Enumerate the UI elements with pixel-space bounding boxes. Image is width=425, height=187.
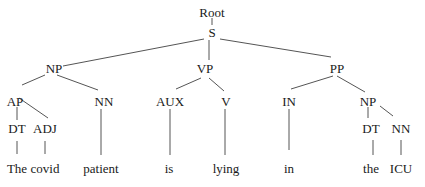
node-in: IN xyxy=(282,95,296,108)
node-root: Root xyxy=(199,6,224,19)
edge-vp-v xyxy=(209,78,224,91)
edge-np-ap xyxy=(22,75,45,85)
word-patient: patient xyxy=(83,162,118,175)
node-np-right: NP xyxy=(360,95,377,108)
word-is: is xyxy=(165,162,174,175)
word-lying: lying xyxy=(213,162,240,175)
node-dt: DT xyxy=(8,122,25,135)
node-vp: VP xyxy=(197,62,214,75)
node-adj: ADJ xyxy=(33,122,57,135)
edge-s-np xyxy=(63,39,204,66)
node-v: V xyxy=(221,95,230,108)
word-icu: ICU xyxy=(390,162,412,175)
word-the: The xyxy=(7,162,27,175)
word-in: in xyxy=(284,162,294,175)
node-np: NP xyxy=(46,62,63,75)
node-s: S xyxy=(208,26,215,39)
node-dt-right: DT xyxy=(362,122,379,135)
node-nn: NN xyxy=(95,95,114,108)
edge-s-pp xyxy=(220,39,331,57)
edge-ap-adj xyxy=(19,98,48,118)
node-aux: AUX xyxy=(156,95,184,108)
node-ap: AP xyxy=(7,95,24,108)
word-covid: covid xyxy=(31,162,60,175)
edge-pp-np xyxy=(337,76,365,92)
node-nn-right: NN xyxy=(392,122,411,135)
parse-tree: Root S NP VP PP AP NN AUX V IN NP DT ADJ… xyxy=(0,0,425,187)
edge-np-nn xyxy=(57,75,98,90)
edge-np2-nn xyxy=(380,106,393,116)
edge-pp-in xyxy=(291,76,333,89)
word-the-2: the xyxy=(363,162,379,175)
node-pp: PP xyxy=(330,62,344,75)
edge-vp-aux xyxy=(176,78,201,89)
